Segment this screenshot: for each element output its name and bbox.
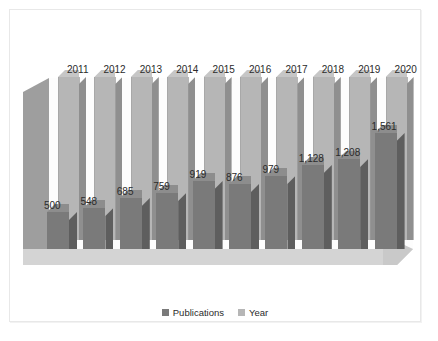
value-label: 1,128	[299, 154, 324, 164]
value-label: 979	[262, 165, 279, 175]
chart-frame: 2011500201254820136852014759201591920168…	[9, 9, 421, 322]
value-label: 1,208	[335, 148, 360, 158]
category-label: 2013	[140, 65, 162, 75]
bar-publications[interactable]: 500	[47, 212, 69, 249]
bar-publications[interactable]: 979	[265, 176, 287, 249]
bar-publications-face	[120, 198, 142, 249]
legend-swatch-publications	[162, 309, 169, 316]
bar-publications-face	[193, 181, 215, 249]
category-label: 2020	[395, 65, 417, 75]
category-label: 2015	[213, 65, 235, 75]
bar-publications-side	[142, 198, 150, 249]
bar-publications-face	[338, 159, 360, 249]
bar-publications[interactable]: 685	[120, 198, 142, 249]
value-label: 919	[190, 170, 207, 180]
value-label: 1,561	[372, 122, 397, 132]
bar-publications-face	[265, 176, 287, 249]
bar-publications-face	[302, 165, 324, 249]
chart-legend: Publications Year	[10, 307, 420, 318]
bar-year-side	[407, 77, 414, 240]
bar-publications-face	[229, 184, 251, 249]
bar-publications[interactable]: 759	[156, 193, 178, 249]
category-label: 2014	[176, 65, 198, 75]
bar-publications[interactable]: 548	[83, 208, 105, 249]
value-label: 500	[44, 201, 61, 211]
bar-publications-side	[324, 165, 332, 249]
bar-publications[interactable]: 1,128	[302, 165, 324, 249]
chart-left-wall	[23, 78, 49, 263]
bar-publications[interactable]: 876	[229, 184, 251, 249]
category-label: 2011	[67, 65, 89, 75]
bar-publications-face	[83, 208, 105, 249]
legend-item-year[interactable]: Year	[238, 307, 268, 318]
chart-floor	[23, 249, 413, 265]
legend-item-publications[interactable]: Publications	[162, 307, 224, 318]
bar-publications-side	[397, 133, 405, 249]
bar-publications[interactable]: 1,561	[375, 133, 397, 249]
bar-publications-side	[251, 184, 259, 249]
bar-publications[interactable]: 1,208	[338, 159, 360, 249]
value-label: 685	[117, 187, 134, 197]
category-label: 2012	[103, 65, 125, 75]
category-label: 2016	[249, 65, 271, 75]
value-label: 876	[226, 173, 243, 183]
plot-area: 2011500201254820136852014759201591920168…	[23, 65, 413, 265]
category-label: 2019	[358, 65, 380, 75]
legend-label-publications: Publications	[173, 307, 224, 318]
bar-publications-side	[287, 176, 295, 249]
bar-publications-side	[178, 193, 186, 249]
bar-publications[interactable]: 919	[193, 181, 215, 249]
chart-screenshot: 2011500201254820136852014759201591920168…	[0, 0, 438, 341]
category-label: 2017	[285, 65, 307, 75]
legend-label-year: Year	[249, 307, 268, 318]
category-label: 2018	[322, 65, 344, 75]
value-label: 759	[153, 182, 170, 192]
bar-publications-face	[375, 133, 397, 249]
legend-swatch-year	[238, 309, 245, 316]
value-label: 548	[80, 197, 97, 207]
bar-publications-face	[47, 212, 69, 249]
bar-publications-side	[215, 181, 223, 249]
bar-publications-face	[156, 193, 178, 249]
bar-publications-side	[360, 159, 368, 249]
